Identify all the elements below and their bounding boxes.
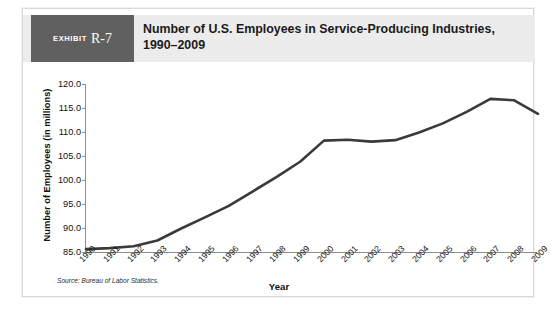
source-note: Source: Bureau of Labor Statistics. [57, 277, 159, 284]
y-axis-tick-label: 105.0 [58, 151, 81, 161]
exhibit-header-band: Exhibit R-7 Number of U.S. Employees in … [23, 15, 535, 62]
y-axis-tick-labels: 85.090.095.0100.0105.0110.0115.0120.0 [41, 84, 81, 252]
line-series [86, 84, 538, 252]
series-polyline [86, 99, 538, 249]
exhibit-badge-number: R-7 [91, 31, 112, 47]
y-axis-tick-mark [82, 132, 86, 133]
y-axis-tick-label: 100.0 [58, 175, 81, 185]
y-axis-tick-label: 90.0 [63, 223, 81, 233]
figure-frame: Exhibit R-7 Number of U.S. Employees in … [22, 8, 534, 297]
y-axis-tick-mark [82, 228, 86, 229]
y-axis-tick-mark [82, 180, 86, 181]
y-axis-tick-label: 110.0 [59, 127, 81, 137]
y-axis-tick-label: 120.0 [58, 79, 81, 89]
y-axis-tick-label: 115.0 [59, 103, 81, 113]
exhibit-badge: Exhibit R-7 [31, 15, 134, 62]
page-title: Number of U.S. Employees in Service-Prod… [143, 21, 523, 53]
y-axis-tick-mark [82, 156, 86, 157]
y-axis-tick-mark [82, 204, 86, 205]
y-axis-tick-label: 95.0 [63, 199, 81, 209]
y-axis-tick-mark [82, 108, 86, 109]
chart-container: Number of Employees (in millions) 85.090… [23, 62, 535, 298]
figure-page: Exhibit R-7 Number of U.S. Employees in … [0, 0, 555, 314]
y-axis-tick-mark [82, 84, 86, 85]
plot-area [85, 84, 537, 252]
exhibit-badge-word: Exhibit [53, 34, 87, 43]
